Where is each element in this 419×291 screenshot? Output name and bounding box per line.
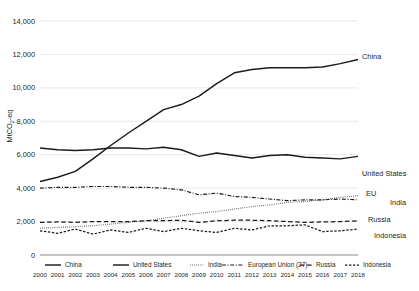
- series-line-indonesia: [40, 225, 358, 234]
- x-axis-tick-label: 2006: [139, 271, 153, 278]
- x-axis-tick-label: 2001: [51, 271, 65, 278]
- series-end-label-european-union-27: EU: [366, 189, 376, 198]
- legend-label-china[interactable]: China: [65, 261, 82, 268]
- emissions-line-chart: 02,0004,0006,0008,00010,00012,00014,000M…: [0, 0, 419, 291]
- x-axis-tick-label: 2004: [104, 271, 118, 278]
- x-axis-tick-label: 2005: [121, 271, 135, 278]
- x-axis-tick-label: 2003: [86, 271, 100, 278]
- y-axis-tick-label: 10,000: [12, 83, 35, 92]
- chart-canvas: 02,0004,0006,0008,00010,00012,00014,000M…: [0, 0, 419, 291]
- y-axis-tick-label: 8,000: [17, 117, 36, 126]
- series-line-india: [40, 196, 358, 229]
- x-axis-tick-label: 2012: [245, 271, 259, 278]
- x-axis-tick-label: 2007: [157, 271, 171, 278]
- legend-label-indonesia[interactable]: Indonesia: [363, 261, 391, 268]
- legend-label-russia[interactable]: Russia: [316, 261, 336, 268]
- series-end-label-russia: Russia: [368, 215, 391, 224]
- legend-label-india[interactable]: India: [208, 261, 222, 268]
- legend-label-european-union-27[interactable]: European Union (27): [248, 261, 307, 269]
- series-end-label-india: India: [390, 198, 407, 207]
- series-end-label-indonesia: Indonesia: [374, 231, 407, 240]
- x-axis-tick-label: 2002: [68, 271, 82, 278]
- y-axis-tick-label: 12,000: [12, 50, 35, 59]
- x-axis-tick-label: 2013: [263, 271, 277, 278]
- x-axis-tick-label: 2018: [351, 271, 365, 278]
- y-axis-tick-label: 6,000: [17, 150, 36, 159]
- x-axis-tick-label: 2008: [174, 271, 188, 278]
- x-axis-tick-label: 2009: [192, 271, 206, 278]
- y-axis-tick-label: 14,000: [12, 17, 35, 26]
- series-end-label-united-states: United States: [362, 169, 407, 178]
- series-line-european-union-27: [40, 186, 358, 200]
- series-end-label-china: China: [362, 52, 382, 61]
- y-axis-tick-label: 2,000: [17, 217, 36, 226]
- x-axis-tick-label: 2016: [316, 271, 330, 278]
- x-axis-tick-label: 2015: [298, 271, 312, 278]
- x-axis-tick-label: 2011: [228, 271, 242, 278]
- legend-label-united-states[interactable]: United States: [133, 261, 171, 268]
- series-line-china: [40, 59, 358, 181]
- y-axis-tick-label: 4,000: [17, 184, 36, 193]
- series-line-united-states: [40, 147, 358, 159]
- x-axis-tick-label: 2017: [333, 271, 347, 278]
- y-axis-tick-label: 0: [31, 251, 35, 260]
- x-axis-tick-label: 2000: [33, 271, 47, 278]
- y-axis-title: MtCO2-eq: [5, 110, 15, 143]
- x-axis-tick-label: 2010: [210, 271, 224, 278]
- x-axis-tick-label: 2014: [280, 271, 294, 278]
